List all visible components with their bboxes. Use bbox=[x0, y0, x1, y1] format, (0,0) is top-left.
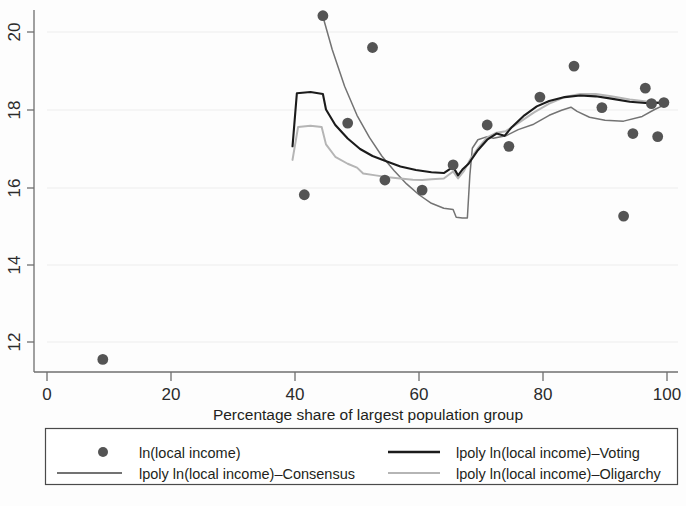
y-tick-label-18: 18 bbox=[5, 101, 24, 120]
y-tick-label-20: 20 bbox=[5, 23, 24, 42]
series-line-oligarchy bbox=[293, 94, 667, 180]
scatter-point bbox=[597, 102, 608, 113]
x-tick-label-80: 80 bbox=[534, 385, 553, 404]
x-tick-label-60: 60 bbox=[410, 385, 429, 404]
scatter-point bbox=[318, 10, 329, 21]
scatter-point bbox=[628, 128, 639, 139]
scatter-plot-figure: 20 18 16 14 12 0 20 40 60 80 100 bbox=[0, 0, 686, 506]
series-line-voting bbox=[293, 92, 667, 175]
figure-page: 20 18 16 14 12 0 20 40 60 80 100 bbox=[0, 0, 686, 506]
x-tick-label-100: 100 bbox=[653, 385, 681, 404]
scatter-point bbox=[342, 118, 353, 129]
gridlines bbox=[47, 32, 678, 342]
plot-canvas: 20 18 16 14 12 0 20 40 60 80 100 bbox=[0, 0, 686, 506]
scatter-point bbox=[659, 97, 670, 108]
legend-label-voting: lpoly ln(local income)–Voting bbox=[456, 445, 640, 461]
scatter-point bbox=[640, 83, 651, 94]
x-tick-label-0: 0 bbox=[42, 385, 51, 404]
scatter-point bbox=[299, 189, 310, 200]
scatter-point bbox=[367, 42, 378, 53]
y-tick-label-16: 16 bbox=[5, 179, 24, 198]
scatter-point bbox=[380, 175, 391, 186]
legend: ln(local income) lpoly ln(local income)–… bbox=[46, 429, 678, 485]
y-axis: 20 18 16 14 12 bbox=[5, 10, 34, 372]
scatter-point bbox=[535, 92, 546, 103]
legend-marker-scatter-icon bbox=[98, 447, 108, 457]
scatter-point bbox=[569, 61, 580, 72]
scatter-point bbox=[618, 211, 629, 222]
legend-label-oligarchy: lpoly ln(local income)–Oligarchy bbox=[456, 466, 661, 482]
scatter-point bbox=[417, 185, 428, 196]
scatter-point bbox=[646, 98, 657, 109]
legend-label-consensus: lpoly ln(local income)–Consensus bbox=[139, 466, 355, 482]
x-axis: 0 20 40 60 80 100 Percentage share of la… bbox=[34, 372, 681, 423]
x-axis-title: Percentage share of largest population g… bbox=[213, 406, 523, 423]
scatter-point bbox=[504, 141, 515, 152]
scatter-point bbox=[448, 160, 459, 171]
legend-label-scatter: ln(local income) bbox=[139, 445, 241, 461]
y-tick-label-12: 12 bbox=[5, 333, 24, 352]
scatter-point bbox=[652, 131, 663, 142]
y-tick-label-14: 14 bbox=[5, 256, 24, 275]
x-tick-label-40: 40 bbox=[286, 385, 305, 404]
scatter-point bbox=[97, 354, 108, 365]
scatter-point bbox=[482, 120, 493, 131]
x-tick-label-20: 20 bbox=[162, 385, 181, 404]
